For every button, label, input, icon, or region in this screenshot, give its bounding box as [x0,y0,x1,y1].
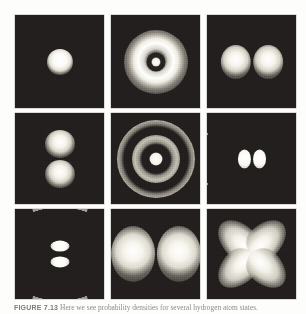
orbital-panel-3d-cloverleaf [207,209,296,299]
outer-ring-shape [117,120,195,198]
bright-core-shape [47,49,73,75]
figure-caption-text: Here we see probability densities for se… [60,303,258,312]
bottom-crescent-shape [32,283,88,299]
top-crescent-shape [32,209,88,225]
figure-label: FIGURE 7.13 [14,304,58,311]
orbital-panel-grid [15,15,296,297]
left-lobe-shape [220,45,250,79]
bottom-inner-lobe-shape [50,256,69,267]
left-inner-lobe-shape [237,149,250,168]
right-crescent-shape [281,132,296,186]
bright-core-shape [151,57,160,66]
dark-node-ring-shape [146,52,165,71]
figure-root: FIGURE 7.13 Here we see probability dens… [0,0,306,314]
top-right-lobe-shape [239,212,294,267]
left-crescent-shape [207,132,222,186]
right-inner-lobe-shape [253,149,266,168]
top-lobe-shape [45,129,75,157]
figure-caption: FIGURE 7.13 Here we see probability dens… [14,303,299,312]
right-lobe-shape [253,45,283,79]
left-lobe-shape [111,226,155,282]
top-inner-lobe-shape [50,241,69,252]
bright-core-shape [149,152,162,165]
orbital-panel-2s [111,15,200,108]
orbital-panel-2p-vertical [15,113,104,204]
bright-halo-shape [124,30,188,94]
top-left-lobe-shape [209,212,264,267]
orbital-panel-3s [111,113,200,204]
bottom-lobe-shape [45,160,75,188]
orbital-panel-1s [15,15,104,108]
bottom-left-lobe-shape [209,241,264,296]
orbital-panel-3p-vertical [15,209,104,299]
bottom-right-lobe-shape [239,241,294,296]
orbital-panel-3d-dipole [111,209,200,299]
inner-ring-shape [132,135,180,183]
right-lobe-shape [156,226,200,282]
orbital-panel-2p-horizontal [207,15,296,108]
orbital-panel-3p-horizontal [207,113,296,204]
